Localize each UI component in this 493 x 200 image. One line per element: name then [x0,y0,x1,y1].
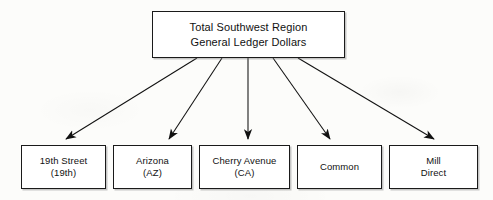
node-common: Common [297,145,382,189]
connector-to-common [273,58,330,139]
node-19th-street: 19th Street (19th) [21,145,106,189]
node-common-label: Common [320,161,359,173]
node-mill-direct: Mill Direct [389,145,478,189]
connector-to-mill-direct [298,58,434,139]
node-cherry-avenue-label: Cherry Avenue (CA) [213,155,277,179]
node-arizona: Arizona (AZ) [113,145,192,189]
node-19th-street-label: 19th Street (19th) [40,155,88,179]
root-node: Total Southwest Region General Ledger Do… [152,11,345,58]
node-arizona-label: Arizona (AZ) [136,155,169,179]
node-cherry-avenue: Cherry Avenue (CA) [199,145,290,189]
root-node-label: Total Southwest Region General Ledger Do… [190,20,308,48]
diagram-canvas: Total Southwest Region General Ledger Do… [0,0,493,200]
node-mill-direct-label: Mill Direct [421,155,446,179]
